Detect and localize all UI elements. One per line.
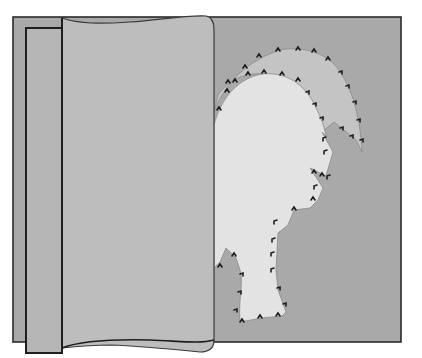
under-panel bbox=[26, 28, 62, 353]
applique-diagram: Appliqué rooster basted to background fa… bbox=[0, 0, 422, 358]
folded-flap bbox=[62, 16, 214, 352]
